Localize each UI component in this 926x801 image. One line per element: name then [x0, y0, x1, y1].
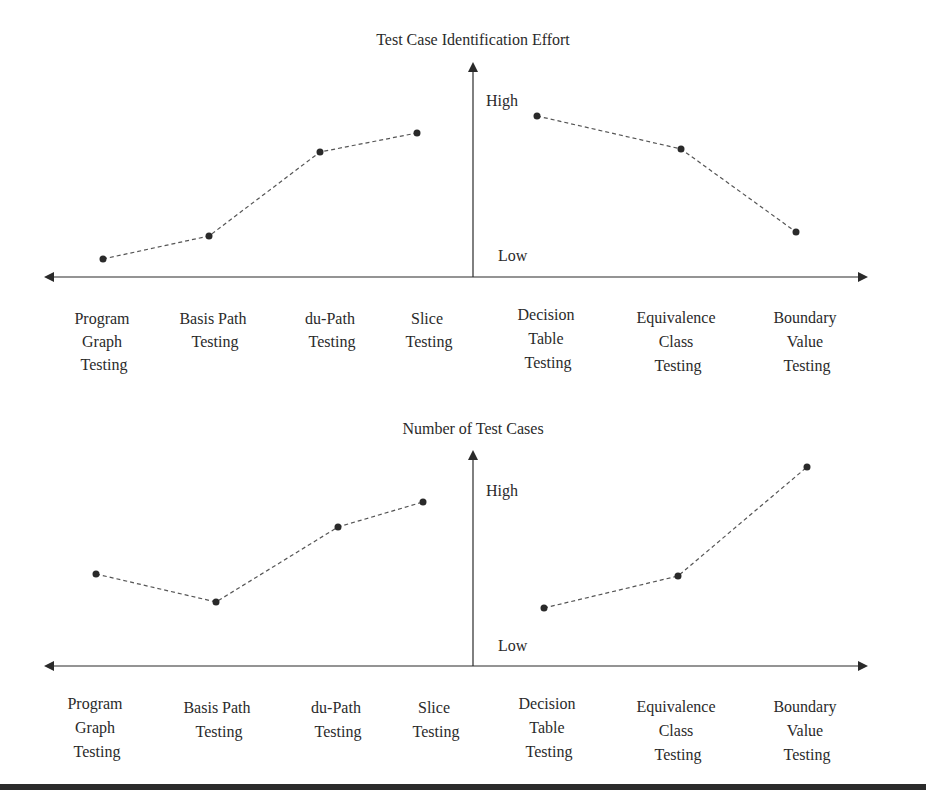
category-label: Boundary Value Testing	[773, 698, 840, 764]
data-point	[213, 599, 220, 606]
data-point	[335, 524, 342, 531]
series-line-right	[537, 116, 796, 232]
data-point	[420, 499, 427, 506]
category-labels: Program Graph Testing Basis Path Testing…	[67, 695, 840, 764]
category-label: Program Graph Testing	[67, 695, 126, 761]
data-point	[317, 149, 324, 156]
data-points	[100, 113, 800, 263]
category-label: Slice Testing	[413, 699, 460, 741]
category-label: Decision Table Testing	[519, 695, 580, 761]
chart-canvas: Test Case Identification Effort High Low…	[0, 0, 926, 801]
y-low-label: Low	[498, 637, 528, 654]
data-points	[93, 464, 811, 612]
data-point	[678, 146, 685, 153]
category-label: Equivalence Class Testing	[636, 698, 719, 764]
category-labels: Program Graph Testing Basis Path Testing…	[74, 306, 840, 375]
series-line-left	[103, 133, 417, 259]
data-point	[93, 571, 100, 578]
data-point	[206, 233, 213, 240]
category-label: Basis Path Testing	[179, 310, 250, 351]
chart-test-cases: Number of Test Cases High Low Program Gr…	[46, 420, 866, 764]
bottom-rule	[0, 784, 926, 790]
y-high-label: High	[486, 92, 518, 110]
data-point	[804, 464, 811, 471]
category-label: Equivalence Class Testing	[636, 309, 719, 375]
data-point	[100, 256, 107, 263]
category-label: du-Path Testing	[305, 310, 359, 351]
category-label: Basis Path Testing	[183, 699, 254, 741]
y-low-label: Low	[498, 247, 528, 264]
category-label: Boundary Value Testing	[773, 309, 840, 375]
category-label: Program Graph Testing	[74, 310, 133, 374]
series-line-right	[544, 467, 807, 608]
chart-effort: Test Case Identification Effort High Low…	[46, 31, 866, 375]
category-label: Decision Table Testing	[518, 306, 579, 372]
chart-title: Test Case Identification Effort	[376, 31, 570, 48]
category-label: du-Path Testing	[311, 699, 365, 741]
series-line-left	[96, 502, 423, 602]
data-point	[675, 573, 682, 580]
chart-title: Number of Test Cases	[402, 420, 543, 437]
category-label: Slice Testing	[406, 310, 453, 351]
y-high-label: High	[486, 482, 518, 500]
data-point	[793, 229, 800, 236]
data-point	[534, 113, 541, 120]
data-point	[541, 605, 548, 612]
data-point	[414, 130, 421, 137]
